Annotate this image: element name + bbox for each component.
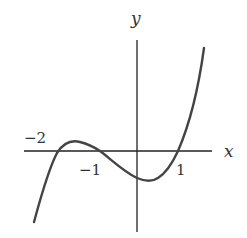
tick-label-neg2: −2 [24,129,46,147]
function-curve [34,48,204,222]
y-axis-label: y [130,8,141,28]
chart-canvas: y x −2 −1 1 [0,0,247,238]
tick-label-pos1: 1 [176,161,186,179]
x-axis-label: x [224,141,234,161]
tick-label-neg1: −1 [79,161,101,179]
